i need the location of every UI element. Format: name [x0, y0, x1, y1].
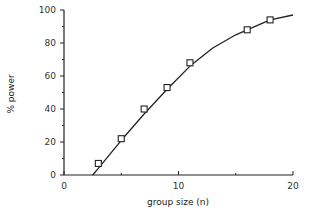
y-tick-label: 0 — [50, 170, 56, 180]
x-axis-label: group size (n) — [147, 197, 209, 207]
x-tick-label: 0 — [61, 181, 67, 191]
data-point-marker — [187, 60, 193, 66]
data-point-marker — [141, 106, 147, 112]
y-tick-label: 100 — [39, 5, 56, 15]
axes: 02040608010001020 — [39, 5, 299, 191]
data-point-marker — [244, 27, 250, 33]
y-tick-label: 60 — [45, 71, 57, 81]
power-curve-chart: 02040608010001020 group size (n) % power — [0, 0, 309, 213]
y-axis-label: % power — [6, 74, 16, 114]
x-tick-label: 20 — [287, 181, 299, 191]
data-point-marker — [95, 160, 101, 166]
y-tick-label: 40 — [45, 104, 57, 114]
data-points — [95, 17, 273, 167]
x-tick-label: 10 — [173, 181, 185, 191]
data-point-marker — [267, 17, 273, 23]
y-tick-label: 80 — [45, 38, 57, 48]
data-point-marker — [164, 85, 170, 91]
data-point-marker — [118, 136, 124, 142]
fitted-curve — [93, 15, 293, 175]
y-tick-label: 20 — [45, 137, 57, 147]
